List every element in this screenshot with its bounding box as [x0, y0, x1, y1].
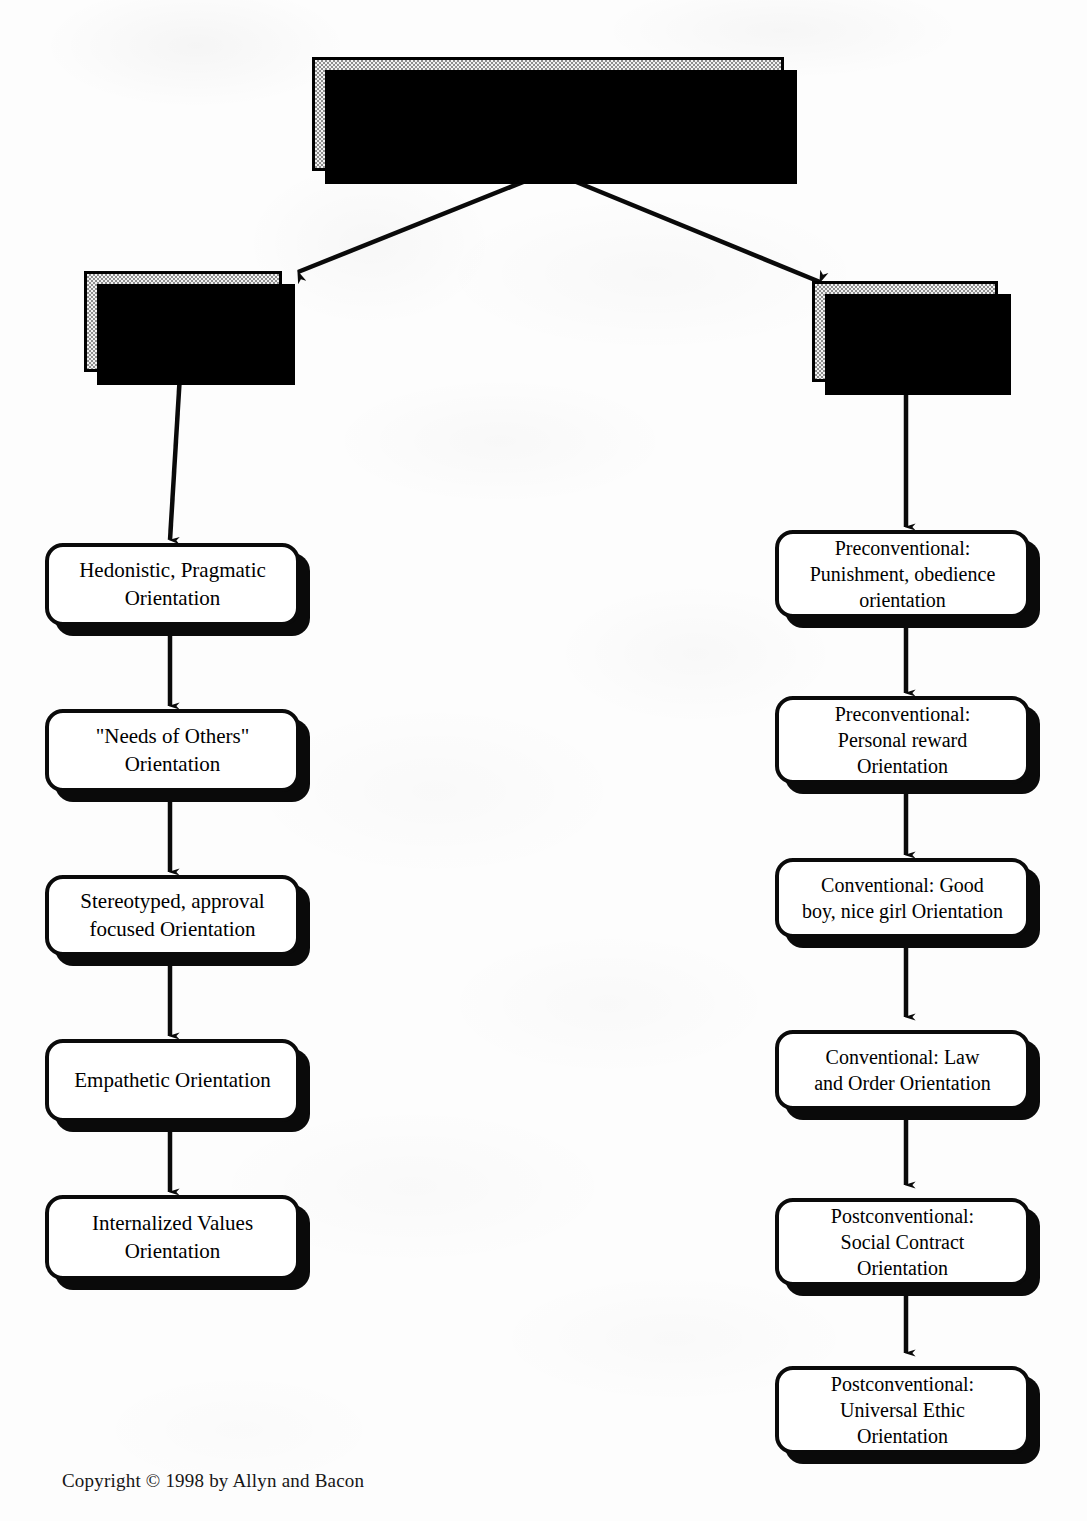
eisenberg-stage-4-label: Empathetic Orientation — [64, 1067, 281, 1094]
eisenberg-stage-3[interactable]: Stereotyped, approval focused Orientatio… — [45, 875, 300, 956]
eisenberg-stage-1-label: Hedonistic, Pragmatic Orientation — [69, 557, 276, 612]
kohlberg-stage-1[interactable]: Preconventional: Punishment, obedience o… — [775, 530, 1030, 618]
kohlberg-stage-4[interactable]: Conventional: Law and Order Orientation — [775, 1030, 1030, 1110]
kohlberg-stage-5-label: Postconventional: Social Contract Orient… — [821, 1203, 984, 1281]
edge-root-to-eisenberg — [298, 172, 548, 272]
branch-node-eisenberg-label: Eisenberg — [115, 304, 251, 340]
eisenberg-stage-5-label: Internalized Values Orientation — [82, 1210, 263, 1265]
kohlberg-stage-2-label: Preconventional: Personal reward Orienta… — [825, 701, 981, 779]
copyright-notice: Copyright © 1998 by Allyn and Bacon — [62, 1470, 364, 1492]
flowchart-page: Moral Reasoning Eisenberg Kohlberg Hedon… — [0, 0, 1087, 1521]
edge-eisenberg-to-e1 — [170, 374, 180, 540]
eisenberg-stage-1[interactable]: Hedonistic, Pragmatic Orientation — [45, 543, 300, 626]
kohlberg-stage-6-label: Postconventional: Universal Ethic Orient… — [821, 1371, 984, 1449]
edge-root-to-kohlberg — [552, 172, 820, 282]
kohlberg-stage-1-label: Preconventional: Punishment, obedience o… — [800, 535, 1006, 613]
kohlberg-stage-3[interactable]: Conventional: Good boy, nice girl Orient… — [775, 858, 1030, 938]
eisenberg-stage-3-label: Stereotyped, approval focused Orientatio… — [70, 888, 274, 943]
kohlberg-stage-4-label: Conventional: Law and Order Orientation — [804, 1044, 1001, 1096]
eisenberg-stage-4[interactable]: Empathetic Orientation — [45, 1039, 300, 1122]
branch-node-kohlberg[interactable]: Kohlberg — [812, 281, 998, 382]
eisenberg-stage-5[interactable]: Internalized Values Orientation — [45, 1195, 300, 1280]
branch-node-kohlberg-label: Kohlberg — [841, 314, 970, 350]
eisenberg-stage-2[interactable]: "Needs of Others" Orientation — [45, 709, 300, 792]
kohlberg-stage-2[interactable]: Preconventional: Personal reward Orienta… — [775, 696, 1030, 784]
kohlberg-stage-5[interactable]: Postconventional: Social Contract Orient… — [775, 1198, 1030, 1286]
eisenberg-stage-2-label: "Needs of Others" Orientation — [86, 723, 260, 778]
branch-node-eisenberg[interactable]: Eisenberg — [84, 271, 282, 372]
root-node-moral-reasoning[interactable]: Moral Reasoning — [312, 57, 784, 171]
kohlberg-stage-6[interactable]: Postconventional: Universal Ethic Orient… — [775, 1366, 1030, 1454]
kohlberg-stage-3-label: Conventional: Good boy, nice girl Orient… — [792, 872, 1013, 924]
root-node-label: Moral Reasoning — [420, 95, 676, 133]
